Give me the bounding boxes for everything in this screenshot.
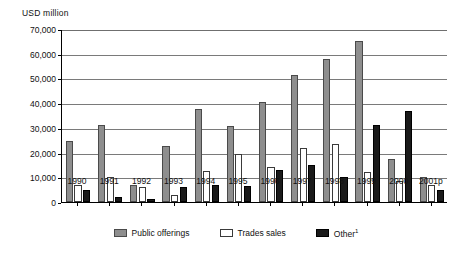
y-axis-tick-label: 30,000 [0,124,56,134]
legend-swatch [220,229,233,237]
bar [147,199,154,202]
x-axis-tick-label: 1995 [228,176,247,186]
x-axis-tick-label: 1992 [132,176,151,186]
bar [66,141,73,202]
x-axis-tick-label: 1991 [100,176,119,186]
x-axis-tick-mark [431,203,432,206]
y-axis-tick-label: 70,000 [0,25,56,35]
y-axis-tick-mark [58,203,61,204]
x-axis-tick-mark [334,203,335,206]
legend-swatch [316,229,329,237]
y-axis-tick-label: 0 [0,198,56,208]
legend-label: Other1 [334,228,359,239]
bar [74,185,81,202]
x-axis-tick-label: 1999 [357,176,376,186]
x-axis-tick-mark [174,203,175,206]
bar [83,190,90,202]
x-axis-tick-label: 2000 [389,176,408,186]
y-axis-tick-label: 40,000 [0,99,56,109]
x-axis-tick-mark [206,203,207,206]
bar [195,109,202,202]
y-axis-tick-mark [58,55,61,56]
bar [373,125,380,202]
x-axis-tick-label: 1998 [325,176,344,186]
y-axis-tick-label: 60,000 [0,50,56,60]
x-axis-tick-label: 1993 [164,176,183,186]
bar [405,111,412,202]
x-axis-tick-label: 1994 [196,176,215,186]
x-axis-tick-label: 1997 [293,176,312,186]
bar [259,102,266,202]
bar [332,144,339,202]
bar [437,190,444,202]
y-axis-tick-mark [58,154,61,155]
legend-item: Other1 [316,228,359,239]
legend-swatch [114,229,127,237]
bar-chart: USD million 010,00020,00030,00040,00050,… [0,0,472,254]
bar [227,126,234,202]
bar [300,148,307,202]
x-axis-tick-mark [109,203,110,206]
bar [139,187,146,202]
bar [98,125,105,202]
x-axis-tick-mark [302,203,303,206]
y-axis-tick-mark [58,178,61,179]
legend-label: Public offerings [132,228,190,238]
y-axis-tick-label: 10,000 [0,173,56,183]
bar [428,185,435,202]
x-axis-tick-mark [270,203,271,206]
bar [212,185,219,202]
bar [130,185,137,202]
chart-legend: Public offeringsTrades salesOther1 [0,228,472,239]
bar [115,197,122,202]
y-axis-title: USD million [22,8,69,18]
bar [171,195,178,202]
x-axis-tick-label: 1990 [68,176,87,186]
legend-item: Trades sales [220,228,286,238]
x-axis-tick-mark [141,203,142,206]
bar [180,187,187,202]
x-axis-tick-mark [367,203,368,206]
legend-label: Trades sales [238,228,286,238]
bar [244,186,251,202]
y-axis-tick-mark [58,79,61,80]
x-axis-tick-mark [77,203,78,206]
y-axis-tick-mark [58,30,61,31]
y-axis-tick-label: 50,000 [0,74,56,84]
legend-footnote-marker: 1 [355,228,358,234]
y-axis-tick-label: 20,000 [0,149,56,159]
x-axis-tick-mark [238,203,239,206]
legend-item: Public offerings [114,228,190,238]
x-axis-tick-mark [399,203,400,206]
y-axis-tick-mark [58,129,61,130]
x-axis-tick-label: 1996 [261,176,280,186]
bar [162,146,169,202]
y-axis-tick-mark [58,104,61,105]
x-axis-tick-label: 2001p [419,176,443,186]
